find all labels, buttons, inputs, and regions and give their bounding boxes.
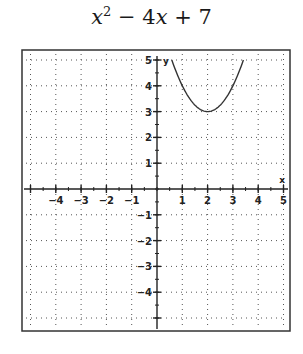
- plot-frame: [22, 50, 290, 331]
- x-tick-label: 1: [179, 195, 186, 206]
- x-tick-label: 4: [255, 195, 262, 206]
- y-tick-label: −1: [137, 210, 152, 221]
- x-tick-label: −1: [124, 195, 139, 206]
- x-tick-label: 2: [204, 195, 211, 206]
- y-tick-label: 1: [145, 158, 152, 169]
- y-tick-label: −2: [137, 236, 152, 247]
- y-tick-label: 2: [145, 132, 152, 143]
- x-axis-label: x: [279, 175, 285, 185]
- plot-area: −4−3−2−11234554321−1−2−3−4xy: [0, 0, 303, 354]
- x-tick-label: 3: [229, 195, 236, 206]
- y-tick-label: 4: [145, 81, 152, 92]
- x-tick-label: −4: [48, 195, 63, 206]
- x-tick-label: −2: [99, 195, 114, 206]
- x-tick-label: 5: [280, 195, 287, 206]
- y-tick-label: −3: [137, 261, 152, 272]
- y-tick-label: 5: [145, 55, 152, 66]
- x-tick-label: −3: [73, 195, 88, 206]
- parabola-curve: [172, 60, 244, 112]
- y-tick-label: 3: [145, 107, 152, 118]
- y-tick-label: −4: [137, 287, 152, 298]
- y-axis-label: y: [163, 56, 169, 66]
